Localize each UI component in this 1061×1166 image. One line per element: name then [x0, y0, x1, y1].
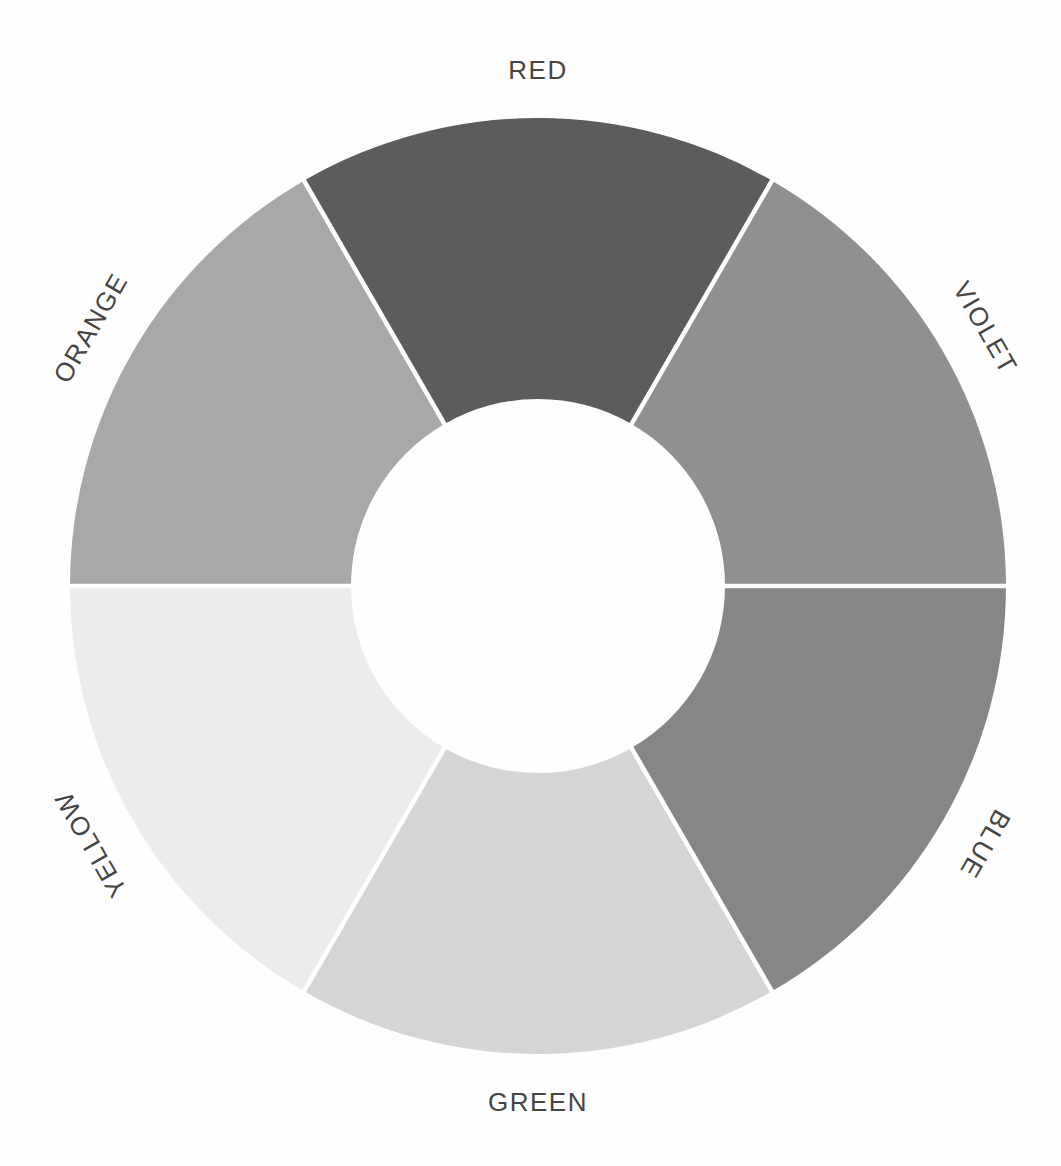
- segment-label-green: GREEN: [488, 1087, 588, 1118]
- segment-label-red: RED: [508, 55, 567, 86]
- color-wheel: [0, 0, 1061, 1166]
- scanned-page: RED VIOLET BLUE GREEN YELLOW ORANGE: [0, 0, 1061, 1166]
